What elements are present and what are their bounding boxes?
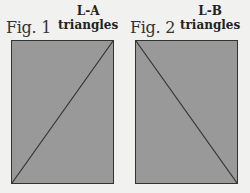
figure-2-rectangle	[135, 40, 238, 184]
figure-1-rectangle	[11, 40, 114, 184]
figure-2-title-line2: triangles	[180, 18, 240, 32]
figure-1-label: Fig. 1	[6, 18, 51, 37]
figure-2-label: Fig. 2	[130, 18, 175, 37]
figure-2-title: L-B triangles	[180, 4, 240, 32]
figure-1-title: L-A triangles	[58, 4, 118, 32]
la-triangles-diagram	[11, 40, 114, 184]
figure-1-title-line2: triangles	[58, 18, 118, 32]
figure-1-title-line1: L-A	[58, 4, 118, 18]
figure-2-title-line1: L-B	[180, 4, 240, 18]
lb-triangles-diagram	[135, 40, 238, 184]
